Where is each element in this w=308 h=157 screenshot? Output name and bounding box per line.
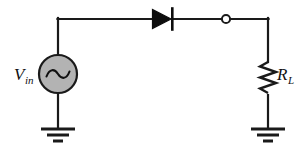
resistor-label-main: R: [276, 65, 288, 84]
source-label: V in: [14, 65, 34, 86]
resistor-zigzag-icon: [260, 62, 276, 93]
ground-left: [41, 129, 75, 141]
resistor-label: R L: [276, 65, 294, 86]
source-label-subscript: in: [25, 74, 34, 86]
resistor-label-subscript: L: [287, 74, 294, 86]
ac-voltage-source: [39, 55, 77, 93]
circuit-diagram: V in R L: [0, 0, 308, 157]
diode-icon: [153, 9, 173, 30]
ground-right: [251, 129, 285, 141]
diode-triangle: [153, 10, 172, 29]
circuit-canvas: V in R L: [0, 0, 308, 157]
open-circle-node-icon: [222, 15, 230, 23]
